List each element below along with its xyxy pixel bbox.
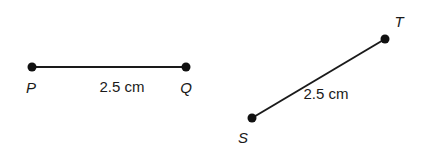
length-label-pq: 2.5 cm xyxy=(99,78,144,95)
label-t: T xyxy=(394,13,405,30)
label-p: P xyxy=(26,79,36,96)
segment-st: S T 2.5 cm xyxy=(238,13,405,146)
point-s xyxy=(248,114,257,123)
label-q: Q xyxy=(180,79,192,96)
segment-pq: P Q 2.5 cm xyxy=(26,63,192,97)
segments-diagram: P Q 2.5 cm S T 2.5 cm xyxy=(0,0,421,160)
segment-st-line xyxy=(252,39,385,118)
point-p xyxy=(28,63,37,72)
length-label-st: 2.5 cm xyxy=(303,85,348,102)
point-q xyxy=(182,63,191,72)
label-s: S xyxy=(238,129,248,146)
point-t xyxy=(381,35,390,44)
